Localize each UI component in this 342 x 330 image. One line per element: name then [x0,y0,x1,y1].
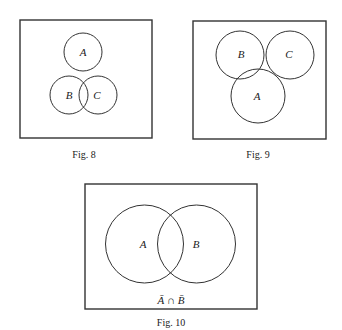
universe-box [193,21,326,139]
set-c-label: C [93,89,101,101]
set-c-label: C [285,48,293,60]
set-a-label: A [139,238,147,250]
universe-box [85,184,257,309]
set-b-label: B [193,238,200,250]
universe-box [20,20,152,138]
figure-caption: Fig. 9 [246,149,269,160]
complement-region-label: Ā ∩ B̄ [157,294,185,306]
set-b-label: B [66,89,73,101]
set-a-label: A [79,46,87,58]
set-a-label: A [253,90,261,102]
set-b-label: B [238,48,245,60]
figure-caption: Fig. 10 [157,317,185,328]
figure-caption: Fig. 8 [72,149,95,160]
figure-8: A B C Fig. 8 [20,20,152,160]
figure-10: A B Ā ∩ B̄ Fig. 10 [85,184,257,328]
figure-9: B C A Fig. 9 [193,21,326,160]
venn-diagrams: A B C Fig. 8 B C A Fig. 9 A B Ā ∩ B̄ Fig… [0,0,342,330]
